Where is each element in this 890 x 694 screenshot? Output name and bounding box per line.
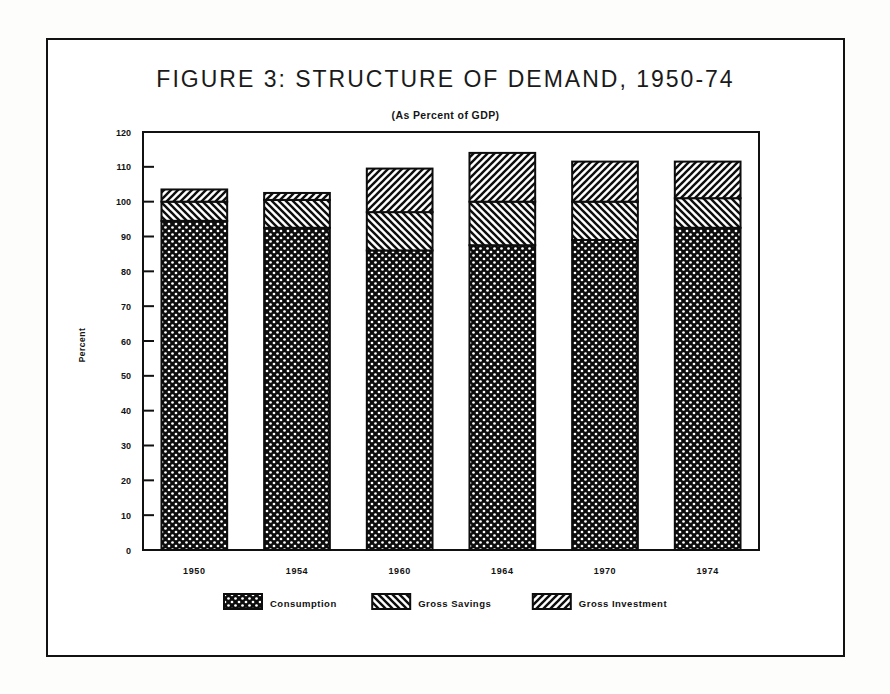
y-tick-label: 60 (121, 337, 131, 347)
bar-segment (572, 240, 638, 550)
figure-frame: FIGURE 3: STRUCTURE OF DEMAND, 1950-74 (… (46, 38, 845, 657)
legend-swatch-icon (224, 594, 262, 609)
bar-segment (161, 189, 227, 201)
x-tick-label: 1950 (183, 566, 205, 576)
bar-segment (264, 228, 330, 550)
y-tick-label: 120 (116, 128, 131, 138)
legend-item: Gross Savings (372, 594, 491, 609)
legend-label: Gross Investment (579, 598, 668, 609)
y-tick-label: 70 (121, 302, 131, 312)
bar-segment (675, 228, 741, 550)
chart-canvas: 1201101009080706050403020100 19501954196… (48, 40, 847, 659)
bar-segment (367, 212, 433, 250)
bar-segment (367, 169, 433, 213)
x-axis-labels: 195019541960196419701974 (183, 566, 719, 576)
bar-segment (572, 202, 638, 240)
y-tick-label: 90 (121, 232, 131, 242)
y-tick-label: 0 (126, 546, 131, 556)
bar-segment (469, 153, 535, 202)
legend-label: Gross Savings (418, 598, 491, 609)
y-tick-label: 50 (121, 371, 131, 381)
y-tick-label: 110 (116, 162, 131, 172)
chart-legend: ConsumptionGross SavingsGross Investment (224, 594, 667, 609)
y-tick-label: 100 (116, 197, 131, 207)
x-tick-label: 1960 (388, 566, 410, 576)
bar-segment (161, 202, 227, 221)
x-tick-label: 1964 (491, 566, 513, 576)
y-tick-label: 80 (121, 267, 131, 277)
stacked-bar-chart: 1201101009080706050403020100 19501954196… (48, 40, 847, 659)
bar-segment (161, 221, 227, 550)
y-axis-ticks: 1201101009080706050403020100 (116, 128, 154, 556)
bar-segment (572, 162, 638, 202)
legend-item: Gross Investment (533, 594, 668, 609)
plot-frame (143, 132, 759, 550)
bar-segment (675, 162, 741, 199)
legend-swatch-icon (372, 594, 410, 609)
y-tick-label: 30 (121, 441, 131, 451)
x-tick-label: 1974 (696, 566, 718, 576)
x-tick-label: 1954 (286, 566, 308, 576)
y-tick-label: 10 (121, 511, 131, 521)
legend-swatch-icon (533, 594, 571, 609)
legend-item: Consumption (224, 594, 337, 609)
y-tick-label: 40 (121, 406, 131, 416)
x-tick-label: 1970 (594, 566, 616, 576)
y-tick-label: 20 (121, 476, 131, 486)
bar-segment (264, 200, 330, 228)
bar-segment (469, 245, 535, 550)
bar-segment (264, 193, 330, 200)
bar-segment (675, 198, 741, 228)
legend-label: Consumption (270, 598, 337, 609)
bar-segment (469, 202, 535, 246)
bar-segment (367, 250, 433, 550)
bar-group (161, 153, 740, 550)
